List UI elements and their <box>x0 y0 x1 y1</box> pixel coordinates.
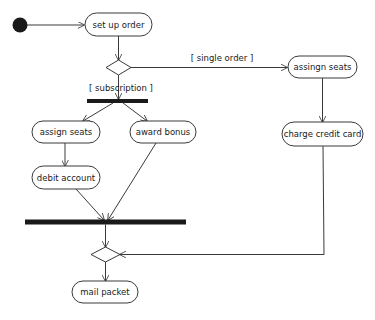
initial-node <box>13 18 28 33</box>
fork-bar <box>87 99 148 103</box>
activity-diagram <box>0 0 375 320</box>
guard-subscription: [ subscription ] <box>89 84 153 93</box>
guard-single-order: [ single order ] <box>191 54 254 63</box>
label-mail-packet: mail packet <box>80 288 129 297</box>
label-charge-credit-card: charge credit card <box>284 130 362 139</box>
label-award-bonus: award bonus <box>136 128 191 137</box>
decision-node <box>106 60 131 75</box>
edge-charge-credit-card-to-merge <box>120 146 324 255</box>
label-debit-account: debit account <box>37 173 95 182</box>
edge-fork-to-award-bonus <box>123 103 147 121</box>
edge-award-bonus-to-join <box>108 143 156 220</box>
merge-node <box>91 247 120 262</box>
label-assign-seats: assign seats <box>40 128 93 137</box>
label-set-up-order: set up order <box>93 20 145 29</box>
edge-fork-to-assign-seats <box>83 103 113 121</box>
join-bar <box>25 220 186 225</box>
edge-debit-account-to-join <box>76 189 104 220</box>
label-assingn-seats: assingn seats <box>294 63 352 72</box>
